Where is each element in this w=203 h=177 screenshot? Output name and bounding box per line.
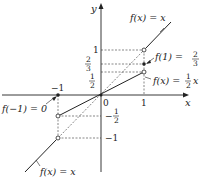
label-fneg1: f(−1) = 0 <box>1 103 47 114</box>
x-tick-neg1: −1 <box>51 83 64 93</box>
y-tick-2-3-num: 2 <box>86 55 91 64</box>
y-axis-label: y <box>90 3 97 14</box>
closed-point-f1 <box>142 62 146 66</box>
open-point-1-half <box>142 70 146 74</box>
y-tick-neg-half-sign: − <box>105 111 113 121</box>
fneg1-arrow-icon <box>52 96 57 101</box>
y-tick-neg1: −1 <box>105 133 118 143</box>
y-tick-1-2-den: 2 <box>90 81 95 90</box>
y-axis-arrow-icon <box>99 3 104 9</box>
label-half-prefix: f(x) = <box>152 75 180 86</box>
y-tick-neg-half-den: 2 <box>114 116 119 125</box>
label-top-fx-x: f(x) = x <box>129 12 166 23</box>
open-point-neg1-neghalf <box>56 114 60 118</box>
line-fx-x-upper <box>146 22 172 49</box>
label-f1-den: 3 <box>193 59 198 68</box>
y-tick-1: 1 <box>93 45 99 55</box>
x-axis-label: x <box>185 97 191 108</box>
origin-label: 0 <box>103 98 109 108</box>
origin-point <box>100 94 103 97</box>
y-tick-neg-half-num: 1 <box>114 107 119 116</box>
piecewise-function-diagram: y x 0 1 −1 1 2 3 1 2 − 1 2 −1 f(x) = x f… <box>0 0 203 177</box>
y-tick-1-2-num: 1 <box>90 72 95 81</box>
label-half-suffix: x <box>193 75 199 86</box>
open-point-neg1-neg1 <box>56 136 60 140</box>
open-point-1-1 <box>142 48 146 52</box>
label-f1-num: 2 <box>193 50 198 59</box>
label-half-den: 2 <box>186 81 191 90</box>
label-bottom-fx-x: f(x) = x <box>39 166 76 177</box>
label-f1-prefix: f(1) = <box>154 51 183 62</box>
x-tick-1: 1 <box>141 98 147 108</box>
label-half-num: 1 <box>186 72 191 81</box>
